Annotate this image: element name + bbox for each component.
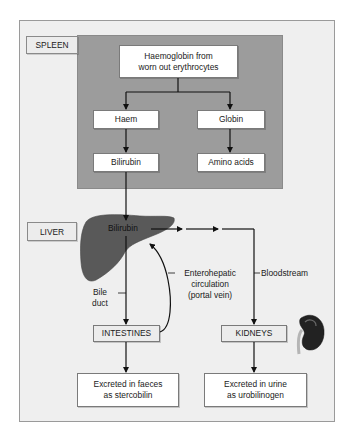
kidneys-box: KIDNEYS (221, 325, 287, 342)
intestines-box: INTESTINES (93, 325, 160, 342)
enterohepatic-line-2: circulation (175, 279, 245, 290)
urine-line-1: Excreted in urine (224, 379, 287, 390)
bloodstream-text: Bloodstream (261, 268, 308, 279)
enterohepatic-line-1: Enterohepatic (175, 268, 245, 279)
faeces-excretion-box: Excreted in faeces as stercobilin (77, 373, 179, 407)
faeces-line-2: as stercobilin (104, 390, 153, 401)
liver-bilirubin-text: Bilirubin (108, 223, 138, 234)
urine-line-2: as urobilinogen (227, 390, 284, 401)
bile-text-1: Bile (93, 287, 107, 298)
connectors (0, 0, 349, 436)
kidney-icon (298, 315, 324, 354)
bile-text-2: duct (92, 298, 108, 309)
urine-excretion-box: Excreted in urine as urobilinogen (204, 373, 307, 407)
enterohepatic-text: Enterohepatic circulation (portal vein) (175, 268, 245, 301)
faeces-line-1: Excreted in faeces (94, 379, 163, 390)
enterohepatic-line-3: (portal vein) (175, 290, 245, 301)
